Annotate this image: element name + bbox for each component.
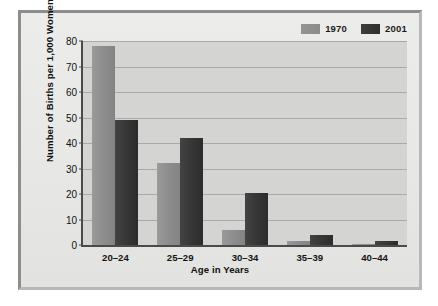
bar-group: 40–44 <box>342 41 407 245</box>
y-axis-title: Number of Births per 1,000 Women <box>44 0 55 171</box>
bar-group: 20–24 <box>83 41 148 245</box>
legend-item-2001: 2001 <box>361 24 407 34</box>
x-tick-label: 20–24 <box>102 252 129 263</box>
bar-2001-30–34 <box>245 193 268 245</box>
bar-1970-25–29 <box>157 163 180 245</box>
bar-1970-35–39 <box>287 241 310 245</box>
y-tick-label: 70 <box>66 61 77 72</box>
x-tick-label: 25–29 <box>167 252 194 263</box>
y-tick-label: 20 <box>66 189 77 200</box>
bar-1970-30–34 <box>222 230 245 245</box>
bar-1970-40–44 <box>352 244 375 245</box>
chart-legend: 1970 2001 <box>301 22 407 35</box>
y-tick-label: 0 <box>71 240 77 251</box>
y-tick-label: 50 <box>66 112 77 123</box>
bar-group: 25–29 <box>148 41 213 245</box>
x-tick-label: 40–44 <box>361 252 388 263</box>
y-tick-label: 30 <box>66 163 77 174</box>
legend-label-1970: 1970 <box>325 24 347 34</box>
y-tick-label: 60 <box>66 87 77 98</box>
bar-2001-35–39 <box>310 235 333 245</box>
y-tick-label: 40 <box>66 138 77 149</box>
y-tick-label: 80 <box>66 36 77 47</box>
legend-swatch-1970 <box>301 24 320 34</box>
bar-groups: 20–2425–2930–3435–3940–44 <box>83 41 407 245</box>
bar-2001-20–24 <box>115 120 138 245</box>
bar-group: 35–39 <box>277 41 342 245</box>
x-axis-title: Age in Years <box>21 264 419 275</box>
bar-2001-25–29 <box>180 138 203 245</box>
bar-1970-20–24 <box>92 46 115 245</box>
bar-group: 30–34 <box>213 41 278 245</box>
chart-figure: 1970 2001 Number of Births per 1,000 Wom… <box>18 10 422 290</box>
plot-area: 01020304050607080 20–2425–2930–3435–3940… <box>81 41 407 247</box>
y-tick-label: 10 <box>66 214 77 225</box>
x-tick-label: 35–39 <box>296 252 323 263</box>
x-tick-label: 30–34 <box>232 252 259 263</box>
bar-2001-40–44 <box>375 241 398 245</box>
legend-item-1970: 1970 <box>301 24 347 34</box>
legend-label-2001: 2001 <box>385 24 407 34</box>
legend-swatch-2001 <box>361 24 380 34</box>
